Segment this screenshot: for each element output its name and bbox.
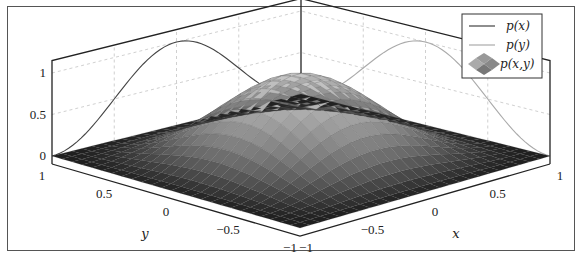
z-tick-label: 0.5 [30, 107, 46, 122]
z-tick-label: 0 [40, 148, 47, 163]
y-tick-label: 1 [39, 168, 46, 183]
z-tick-label: 1 [40, 65, 47, 80]
x-tick-label: −1 [299, 240, 313, 255]
legend-label-pxy: p(x,y) [500, 57, 535, 71]
legend-label-px: p(x) [506, 19, 530, 33]
legend: p(x) p(y) p(x,y) [462, 14, 542, 78]
y-tick-label: −1 [283, 240, 297, 255]
legend-label-py: p(y) [506, 38, 530, 52]
y-tick-label: 0.5 [96, 186, 112, 201]
surface-plot: 00.5110.50−0.5−1−1−0.500.51yx p(x) p(y) … [0, 0, 582, 257]
x-tick-label: 0.5 [489, 186, 505, 201]
y-tick-label: −0.5 [216, 222, 240, 237]
x-tick-label: 0 [432, 204, 439, 219]
x-tick-label: 1 [557, 168, 564, 183]
y-tick-label: 0 [163, 204, 170, 219]
x-tick-label: −0.5 [361, 222, 385, 237]
x-axis-label: x [452, 226, 460, 241]
surface-mesh [52, 73, 550, 228]
y-axis-label: y [140, 226, 149, 241]
